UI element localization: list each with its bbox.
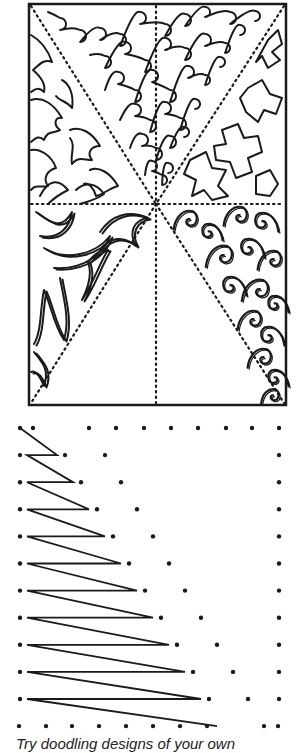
leaf-doodle [31,35,52,92]
zigzag-shapes-pattern [184,30,282,200]
grid-dot [159,616,163,620]
zigzag-shape-doodle [184,152,228,200]
grid-dot [151,724,155,728]
grid-dot [246,697,250,701]
grid-dot [97,724,101,728]
zigzag-shape-doodle [256,30,282,68]
grid-dot [95,507,99,511]
grid-dot [17,724,21,728]
grid-dot [111,534,115,538]
grid-dot [277,426,281,430]
dotted-guide-lines [31,6,284,403]
swirls-pattern [174,207,291,405]
grid-dot [199,616,203,620]
grid-dot [277,561,281,565]
grid-dot [135,507,139,511]
grid-dot [277,588,281,592]
grid-dot [18,453,22,457]
grid-dot [191,670,195,674]
leaf-doodle [84,169,118,196]
grid-dot [143,588,147,592]
grid-dot [231,670,235,674]
grid-dot [276,724,280,728]
leaf-doodle [31,99,62,142]
leaf-doodle [70,129,100,164]
grid-dot [63,453,67,457]
grid-dot [277,697,281,701]
grid-dot [70,724,74,728]
grid-dot [196,426,200,430]
grid-dot [127,561,131,565]
grid-dot [18,480,22,484]
loop-doodle [105,57,225,102]
grid-dot [119,480,123,484]
grid-dot [167,561,171,565]
leaf-doodle [31,150,56,190]
grid-dot [277,643,281,647]
string-art-dot-grid [17,426,281,729]
grid-dot [18,670,22,674]
grid-dot [175,643,179,647]
zigzag-string-line [20,428,217,726]
grid-dot [277,507,281,511]
grid-dot [169,426,173,430]
grid-dot [142,426,146,430]
zigzag-shape-doodle [240,80,282,122]
loop-doodle [48,7,260,46]
diagonal-guide-top-right [156,6,284,204]
grid-dot [277,616,281,620]
grid-dot [250,426,254,430]
grid-dot [277,453,281,457]
grid-dot [178,724,182,728]
doodle-pattern-panel [29,4,290,405]
grid-dot [18,643,22,647]
grid-dot [44,724,48,728]
caption-text: Try doodling designs of your own [16,735,235,753]
grid-dot [79,480,83,484]
grid-dot [18,697,22,701]
grid-dot [31,426,35,430]
loop-doodle [120,99,200,132]
zigzag-shape-doodle [256,170,278,196]
grid-dot [151,534,155,538]
grid-dot [277,534,281,538]
flames-pattern [31,212,151,388]
grid-dot [18,534,22,538]
loop-doodle [145,161,173,185]
loop-doodle [130,127,189,160]
leaves-pattern [31,35,118,204]
grid-dot [18,561,22,565]
grid-dot [18,507,22,511]
leaf-doodle [56,80,73,108]
grid-dot [18,616,22,620]
swirl-doodle [202,224,222,240]
grid-dot [87,426,91,430]
grid-dot [224,426,228,430]
grid-dot [207,697,211,701]
grid-dot [103,453,107,457]
grid-dot [262,724,266,728]
grid-dot [183,588,187,592]
grid-dot [277,670,281,674]
grid-dot [124,724,128,728]
grid-dot [18,588,22,592]
grid-dot [215,643,219,647]
grid-dot [277,480,281,484]
grid-dot [114,426,118,430]
